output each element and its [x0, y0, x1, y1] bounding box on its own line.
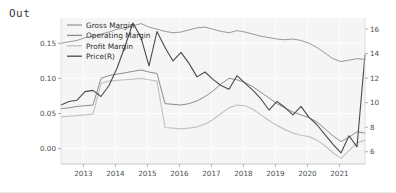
y-tick-label-right: 6: [370, 147, 375, 156]
y-axis-right: 6810121416: [365, 25, 380, 157]
line-chart: 0.000.050.100.15681012141620132014201520…: [25, 12, 393, 190]
x-axis: 201320142015201620172018201920202021: [74, 164, 348, 178]
y-tick-label-left: 0.15: [40, 39, 56, 48]
y-tick-label-left: 0.10: [40, 74, 56, 83]
x-tick-label: 2017: [202, 169, 220, 178]
x-tick-label: 2021: [330, 169, 348, 178]
legend-label: Gross Margin: [86, 21, 135, 30]
y-tick-label-right: 10: [370, 98, 380, 107]
x-tick-label: 2013: [74, 169, 92, 178]
x-tick-label: 2019: [266, 169, 285, 178]
y-tick-label-right: 16: [370, 25, 380, 34]
y-tick-label-right: 14: [370, 49, 380, 58]
x-tick-label: 2014: [106, 169, 125, 178]
x-tick-label: 2015: [138, 169, 156, 178]
y-tick-label-right: 8: [370, 123, 375, 132]
legend-label: Price(R): [86, 52, 115, 61]
x-tick-label: 2018: [234, 169, 253, 178]
x-tick-label: 2020: [298, 169, 317, 178]
x-tick-label: 2016: [170, 169, 189, 178]
y-tick-label-right: 12: [370, 74, 379, 83]
legend-label: Profit Margin: [86, 42, 133, 51]
notebook-output-cell: Out 0.000.050.100.1568101214162013201420…: [0, 0, 396, 193]
matplotlib-figure: 0.000.050.100.15681012141620132014201520…: [25, 12, 393, 190]
y-tick-label-left: 0.05: [40, 109, 56, 118]
y-tick-label-left: 0.00: [40, 144, 56, 153]
legend-label: Operating Margin: [86, 31, 151, 40]
y-axis-left: 0.000.050.100.15: [40, 39, 61, 153]
